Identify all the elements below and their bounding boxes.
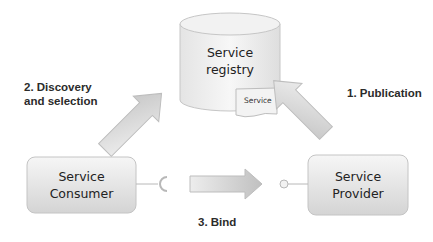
consumer-label-line2: Consumer [27,185,136,202]
discovery-step-label: 2. Discovery and selection [24,80,98,108]
discovery-step-line1: 2. Discovery [24,80,98,94]
consumer-label: Service Consumer [27,168,136,202]
provider-label: Service Provider [308,168,408,202]
bind-arrow [190,169,262,199]
registry-label-line2: registry [190,61,270,78]
provider-label-line2: Provider [308,185,408,202]
provider-label-line1: Service [308,168,408,185]
publication-step-label: 1. Publication [347,86,422,100]
consumer-label-line1: Service [27,168,136,185]
bind-step-label: 3. Bind [198,215,236,229]
discovery-step-line2: and selection [24,94,98,108]
provided-interface-lollipop-icon [280,180,308,188]
service-document-label: Service [244,96,272,105]
diagram-canvas [0,0,433,242]
registry-label-line1: Service [190,44,270,61]
discovery-arrow [92,81,174,163]
registry-label: Service registry [190,44,270,78]
required-interface-socket-icon [136,177,167,191]
